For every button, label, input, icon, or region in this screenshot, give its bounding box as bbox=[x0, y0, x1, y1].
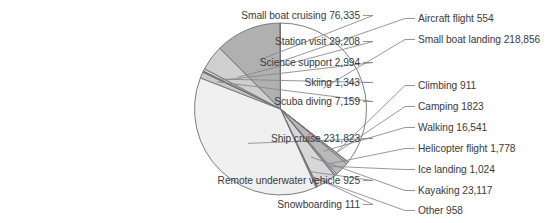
pie-chart-figure: Small boat cruising 76,335Station visit … bbox=[0, 0, 557, 223]
slice-label: Ice landing 1,024 bbox=[418, 164, 495, 175]
slice-label: Climbing 911 bbox=[418, 80, 476, 91]
slice-label: Kayaking 23,117 bbox=[418, 185, 492, 196]
slice-label: Small boat landing 218,856 bbox=[418, 34, 540, 45]
slice-label: Snowboarding 111 bbox=[277, 199, 360, 210]
slice-label: Science support 2,994 bbox=[260, 57, 360, 68]
slice-label: Small boat cruising 76,335 bbox=[241, 10, 360, 21]
slice-label: Walking 16,541 bbox=[418, 122, 487, 133]
slice-label: Other 958 bbox=[418, 205, 463, 216]
slice-label: Remote underwater vehicle 925 bbox=[218, 175, 360, 186]
slice-label: Aircraft flight 554 bbox=[418, 13, 494, 24]
slice-label: Scuba diving 7,159 bbox=[274, 96, 360, 107]
slice-label: Camping 1823 bbox=[418, 101, 484, 112]
slice-label: Ship cruise 231,823 bbox=[271, 133, 360, 144]
slice-label: Skiing 1,343 bbox=[305, 77, 360, 88]
slice-label: Helicopter flight 1,778 bbox=[418, 143, 515, 154]
slice-label: Station visit 29,208 bbox=[275, 36, 360, 47]
pie-slices bbox=[195, 23, 367, 195]
